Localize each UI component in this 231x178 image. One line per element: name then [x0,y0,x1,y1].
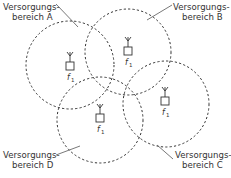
svg-text:bereich D: bereich D [12,160,54,170]
svg-text:1: 1 [129,62,133,68]
label-area-a: Versorgungs- bereich A [3,2,60,22]
svg-text:1: 1 [71,77,75,83]
antenna-icon-d: f 1 [96,104,105,135]
svg-text:bereich C: bereich C [182,160,223,170]
label-area-c: Versorgungs- bereich C [175,150,231,170]
svg-text:bereich A: bereich A [12,12,53,22]
antenna-icon-a: f 1 [66,52,75,83]
antenna-icon-b: f 1 [124,37,133,68]
svg-text:Versorgungs-: Versorgungs- [3,2,60,12]
leader-line-b [147,5,172,20]
svg-text:bereich B: bereich B [182,12,223,22]
svg-text:Versorgungs-: Versorgungs- [3,150,60,160]
leader-line-d [56,146,80,155]
label-area-b: Versorgungs- bereich B [173,2,230,22]
antenna-icon-c: f 1 [161,87,170,118]
label-area-d: Versorgungs- bereich D [3,150,60,170]
svg-text:1: 1 [101,129,105,135]
coverage-diagram: Versorgungs- bereich A Versorgungs- bere… [0,0,231,178]
svg-text:Versorgungs-: Versorgungs- [175,150,231,160]
svg-text:Versorgungs-: Versorgungs- [173,2,230,12]
svg-text:1: 1 [166,112,170,118]
